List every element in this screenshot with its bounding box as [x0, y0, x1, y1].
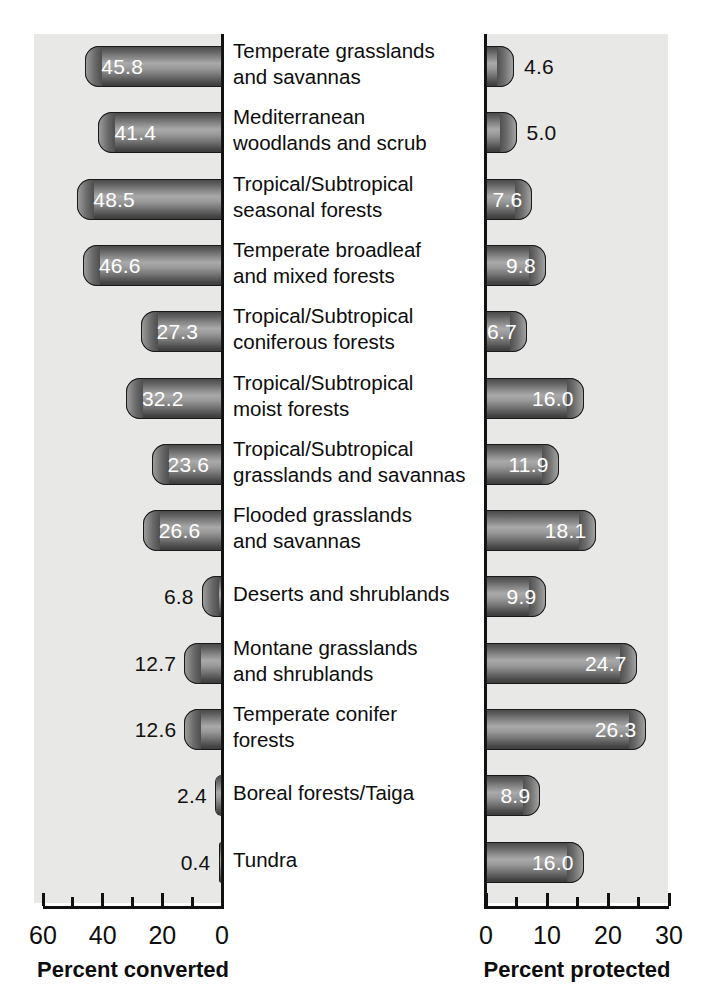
bar-value-label-converted: 46.6 [99, 245, 141, 286]
category-label-line2: woodlands and scrub [233, 130, 478, 156]
bar-value-label-converted: 32.2 [142, 378, 184, 419]
category-label-line1: Montane grasslands [233, 636, 418, 659]
category-label-line2: and mixed forests [233, 263, 478, 289]
chart-row: 12.724.7Montane grasslandsand shrublands [0, 631, 703, 697]
category-label-line2: and savannas [233, 64, 478, 90]
bar-end-cap [497, 46, 514, 87]
category-label-line2: grasslands and savannas [233, 462, 478, 488]
right-axis-tick-label: 0 [479, 921, 493, 950]
chart-row: 2.48.9Boreal forests/Taiga [0, 763, 703, 829]
bar-end-cap [85, 46, 102, 87]
category-label-line1: Tropical/Subtropical [233, 437, 413, 460]
bar-value-label-converted: 48.5 [93, 179, 135, 220]
axis-minor-tick [191, 897, 194, 906]
right-axis-tick-label: 30 [655, 921, 683, 950]
bar-value-label-converted: 26.6 [159, 510, 201, 551]
right-axis-tick-label: 20 [594, 921, 622, 950]
bar-value-label-converted: 23.6 [168, 444, 210, 485]
category-label: Tundra [233, 847, 478, 873]
chart-row: 23.611.9Tropical/Subtropicalgrasslands a… [0, 432, 703, 498]
bar-percent-converted [184, 643, 222, 684]
bar-fill [216, 776, 221, 815]
bar-value-label-converted: 2.4 [161, 775, 207, 816]
left-axis-tick-label: 60 [29, 921, 57, 950]
chart-row: 26.618.1Flooded grasslandsand savannas [0, 498, 703, 564]
category-label: Tropical/Subtropicalgrasslands and savan… [233, 436, 478, 488]
chart-row: 27.36.7Tropical/Subtropicalconiferous fo… [0, 299, 703, 365]
bar-value-label-protected: 8.9 [484, 775, 530, 816]
chart-row: 41.45.0Mediterraneanwoodlands and scrub [0, 100, 703, 166]
bar-end-cap [500, 112, 517, 153]
category-label: Boreal forests/Taiga [233, 780, 478, 806]
bar-end-cap [143, 510, 160, 551]
bar-end-cap [184, 709, 201, 750]
bar-value-label-protected: 24.7 [581, 643, 627, 684]
category-label: Flooded grasslandsand savannas [233, 502, 478, 554]
bar-value-label-protected: 16.0 [528, 842, 574, 883]
category-label-line2: moist forests [233, 396, 478, 422]
bar-value-label-converted: 12.7 [130, 643, 176, 684]
bar-value-label-converted: 41.4 [114, 112, 156, 153]
left-axis-line [43, 906, 224, 909]
chart-row: 45.84.6Temperate grasslandsand savannas [0, 34, 703, 100]
bar-value-label-converted: 27.3 [157, 311, 199, 352]
bar-value-label-protected: 7.6 [476, 179, 522, 220]
bar-end-cap [184, 643, 201, 684]
category-label: Montane grasslandsand shrublands [233, 635, 478, 687]
category-label-line2: and shrublands [233, 661, 478, 687]
category-label-line1: Temperate grasslands [233, 39, 435, 62]
bar-fill [220, 843, 222, 882]
bar-value-label-protected: 4.6 [524, 46, 554, 87]
axis-major-tick [607, 893, 610, 906]
axis-major-tick [221, 893, 224, 906]
category-label-line1: Tundra [233, 848, 297, 871]
category-label-line2: coniferous forests [233, 329, 478, 355]
category-label: Tropical/Subtropicalmoist forests [233, 370, 478, 422]
axis-major-tick [161, 893, 164, 906]
category-label-line1: Tropical/Subtropical [233, 172, 413, 195]
bar-percent-converted [202, 576, 222, 617]
category-label-line1: Temperate broadleaf [233, 238, 421, 261]
axis-minor-tick [637, 897, 640, 906]
chart-row: 46.69.8Temperate broadleafand mixed fore… [0, 233, 703, 299]
category-label-line2: forests [233, 727, 478, 753]
right-axis-tick-label: 10 [533, 921, 561, 950]
bar-end-cap [77, 179, 94, 220]
bar-value-label-converted: 0.4 [165, 842, 211, 883]
bar-value-label-protected: 16.0 [528, 378, 574, 419]
axis-major-tick [42, 893, 45, 906]
bar-value-label-converted: 12.6 [130, 709, 176, 750]
category-label: Tropical/Subtropicalseasonal forests [233, 171, 478, 223]
bar-value-label-protected: 26.3 [590, 709, 636, 750]
category-label-line1: Boreal forests/Taiga [233, 781, 414, 804]
bar-percent-protected [486, 112, 517, 153]
bar-end-cap [152, 444, 169, 485]
bar-end-cap [98, 112, 115, 153]
chart-row: 6.89.9Deserts and shrublands [0, 564, 703, 630]
axis-minor-tick [71, 897, 74, 906]
left-axis-tick-label: 20 [148, 921, 176, 950]
category-label: Tropical/Subtropicalconiferous forests [233, 303, 478, 355]
axis-major-tick [546, 893, 549, 906]
bar-percent-converted [215, 775, 222, 816]
category-label-line1: Temperate conifer [233, 702, 397, 725]
axis-minor-tick [515, 897, 518, 906]
right-axis-line [484, 906, 669, 909]
chart-row: 48.57.6Tropical/Subtropicalseasonal fore… [0, 167, 703, 233]
bar-percent-protected [486, 46, 514, 87]
left-axis-tick-label: 40 [89, 921, 117, 950]
bar-end-cap [83, 245, 100, 286]
right-axis-title: Percent protected [483, 957, 670, 983]
bar-end-cap [202, 576, 219, 617]
bar-percent-converted [184, 709, 222, 750]
bar-value-label-protected: 9.8 [490, 245, 536, 286]
axis-minor-tick [131, 897, 134, 906]
bar-value-label-protected: 11.9 [503, 444, 549, 485]
category-label: Temperate coniferforests [233, 701, 478, 753]
bar-value-label-converted: 45.8 [101, 46, 143, 87]
axis-major-tick [485, 893, 488, 906]
bar-value-label-converted: 6.8 [148, 576, 194, 617]
axis-major-tick [668, 893, 671, 906]
category-label: Deserts and shrublands [233, 581, 478, 607]
bar-percent-converted [219, 842, 223, 883]
